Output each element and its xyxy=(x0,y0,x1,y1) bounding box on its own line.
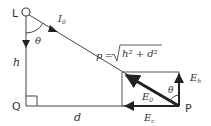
light-source-icon xyxy=(22,8,30,16)
point-Q-label: Q xyxy=(12,100,21,113)
Ec-label: Ec xyxy=(143,112,155,124)
angle-arc-top xyxy=(26,23,43,33)
theta-top-label: θ xyxy=(35,35,41,46)
right-angle-mark xyxy=(26,96,37,106)
intensity-arrow-icon xyxy=(48,25,58,32)
height-label: h xyxy=(13,56,20,69)
point-P-label: P xyxy=(185,102,192,115)
illuminance-diagram: L Q P h d θ θ I0 p= h² + d² E0 Eh Ec xyxy=(0,0,211,126)
intensity-label: I0 xyxy=(57,13,66,25)
point-L-label: L xyxy=(12,7,19,20)
theta-right-label: θ xyxy=(168,85,174,95)
sqrt-body-label: h² + d² xyxy=(122,48,158,59)
Eh-label: Eh xyxy=(189,72,201,84)
distance-label: d xyxy=(74,111,81,124)
down-arrow-icon xyxy=(22,40,30,48)
E0-label: E0 xyxy=(141,91,153,103)
distance-formula-label: p= xyxy=(96,50,113,61)
